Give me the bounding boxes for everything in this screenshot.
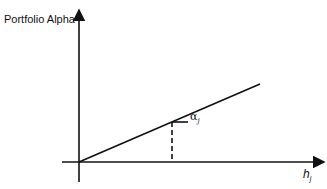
- y-axis-label: Portfolio Alpha: [4, 13, 75, 25]
- x-axis-label: hj: [303, 167, 311, 182]
- diagram-canvas: [0, 0, 327, 189]
- alpha-line: [79, 84, 260, 162]
- alpha-label: αj: [190, 110, 200, 125]
